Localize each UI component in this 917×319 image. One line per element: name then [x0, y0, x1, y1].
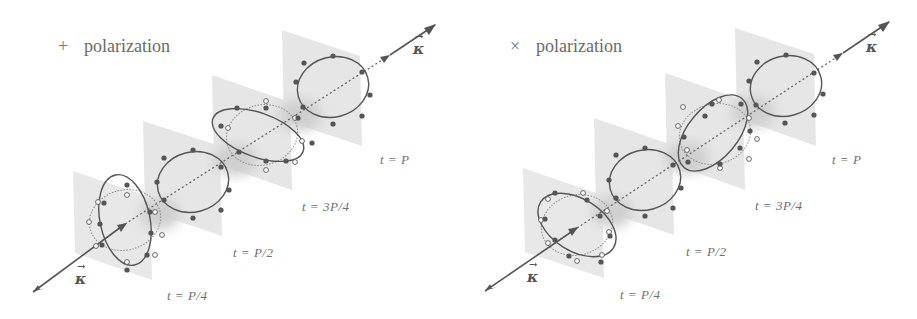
time-label-3p4: t = 3P/4: [755, 198, 802, 214]
arrowhead-end-icon: [878, 21, 890, 32]
arrowhead-end-icon: [424, 24, 436, 35]
time-label-p2: t = P/2: [233, 245, 273, 261]
cross-polarization-panel: ×polarization →κ →κ t = P/4 t = P/2 t = …: [457, 0, 915, 319]
time-label-p: t = P: [380, 152, 409, 168]
plane-t-p: [735, 28, 816, 146]
title-text: polarization: [84, 36, 170, 56]
plane-t-3p4: [665, 73, 745, 190]
title-text: polarization: [536, 36, 622, 56]
kappa-label-end: →κ: [866, 38, 877, 56]
panel-title: ×polarization: [510, 36, 622, 57]
kappa-label-start: →κ: [527, 268, 538, 286]
arrowhead-axis-mid2-icon: [380, 55, 390, 63]
time-label-p2: t = P/2: [686, 244, 726, 260]
plus-symbol-icon: +: [58, 36, 84, 57]
time-label-p4: t = P/4: [620, 287, 660, 303]
kappa-label-end: →κ: [413, 40, 424, 58]
kappa-label-start: →κ: [75, 270, 86, 288]
arrowhead-axis-mid2-icon: [833, 53, 843, 61]
plus-polarization-panel: +polarization →κ →κ t = P/4 t = P/2 t = …: [0, 0, 458, 319]
cross-symbol-icon: ×: [510, 36, 536, 57]
time-label-3p4: t = 3P/4: [302, 199, 349, 215]
time-label-p: t = P: [832, 152, 861, 168]
panel-title: +polarization: [58, 36, 170, 57]
time-label-p4: t = P/4: [167, 288, 207, 304]
